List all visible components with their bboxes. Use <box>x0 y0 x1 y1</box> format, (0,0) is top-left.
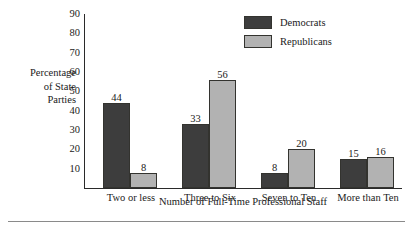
legend-swatch-democrats <box>244 16 272 29</box>
y-axis-tick-90: 90 <box>56 9 80 20</box>
bar-value-label: 8 <box>141 162 146 173</box>
footer-divider <box>8 221 405 222</box>
bar-chart-figure: Percentage of State Parties 908070605040… <box>0 0 412 232</box>
y-axis-tick-80: 80 <box>56 28 80 39</box>
y-axis-tick-40: 40 <box>56 105 80 116</box>
bar-value-label: 16 <box>375 146 386 157</box>
bar-value-label: 20 <box>296 138 307 149</box>
bar-democrats-3: 8 <box>261 173 288 188</box>
bar-value-label: 44 <box>111 92 122 103</box>
y-axis-tick-60: 60 <box>56 67 80 78</box>
plot-area: 908070605040302010 448Two or less3356Thr… <box>84 14 402 188</box>
bar-value-label: 8 <box>272 162 277 173</box>
bar-republicans-3: 20 <box>288 149 315 188</box>
legend-item-democrats: Democrats <box>244 13 332 32</box>
bar-democrats-4: 15 <box>340 159 367 188</box>
y-axis-tick-70: 70 <box>56 47 80 58</box>
bar-group: 448Two or less <box>94 14 168 188</box>
bar-group: 1516More than Ten <box>331 14 405 188</box>
bar-group: 3356Three to Six <box>173 14 247 188</box>
bar-democrats-2: 33 <box>182 124 209 188</box>
legend-label-republicans: Republicans <box>280 36 332 47</box>
bar-democrats-1: 44 <box>103 103 130 188</box>
bar-republicans-2: 56 <box>209 80 236 188</box>
bar-value-label: 56 <box>217 69 228 80</box>
bar-republicans-1: 8 <box>130 173 157 188</box>
y-axis-tick-10: 10 <box>56 163 80 174</box>
chart-legend: Democrats Republicans <box>244 13 332 51</box>
bar-value-label: 15 <box>348 148 359 159</box>
y-axis-tick-50: 50 <box>56 86 80 97</box>
y-axis-tick-30: 30 <box>56 125 80 136</box>
x-axis-line <box>84 188 402 189</box>
legend-label-democrats: Democrats <box>280 17 325 28</box>
y-axis-tick-20: 20 <box>56 144 80 155</box>
bar-value-label: 33 <box>190 113 201 124</box>
legend-swatch-republicans <box>244 35 272 48</box>
bar-republicans-4: 16 <box>367 157 394 188</box>
legend-item-republicans: Republicans <box>244 32 332 51</box>
x-axis-title: Number of Full-Time Professional Staff <box>84 196 402 208</box>
